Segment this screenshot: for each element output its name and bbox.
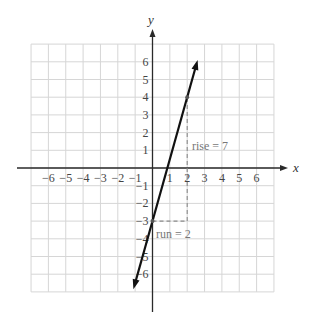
y-axis-arrow-icon [150,29,156,37]
y-tick-label: 4 [143,90,149,104]
run-annotation: run = 2 [156,227,191,241]
rise-annotation: rise = 7 [192,139,228,153]
axes [17,29,288,312]
x-axis-arrow-icon [280,165,288,171]
y-tick-label: −2 [136,196,149,210]
y-tick-label: 1 [143,143,149,157]
x-tick-label: −6 [42,171,55,185]
y-tick-label: 3 [143,108,149,122]
coordinate-plane: −6−5−4−3−2−1123456654321−1−2−3−4−5−6 x y… [0,0,315,323]
y-tick-label: 5 [143,73,149,87]
x-tick-label: −3 [94,171,107,185]
y-tick-label: 6 [143,55,149,69]
x-tick-label: 5 [236,171,242,185]
plotted-point [151,219,155,223]
x-axis-label: x [292,160,299,175]
x-tick-label: 3 [202,171,208,185]
y-tick-label: 2 [143,126,149,140]
x-tick-label: 1 [167,171,173,185]
y-tick-label: −3 [136,214,149,228]
x-tick-label: −5 [59,171,72,185]
x-tick-label: −2 [111,171,124,185]
x-tick-label: 4 [219,171,225,185]
plotted-point [185,95,189,99]
y-axis-label: y [146,12,154,27]
x-tick-label: −4 [77,171,90,185]
y-tick-label: −1 [136,179,149,193]
x-tick-label: 6 [254,171,260,185]
